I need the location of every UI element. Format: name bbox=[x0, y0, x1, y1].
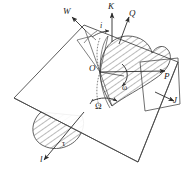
vector-diagram-figure: W K Q i O P ω Ω J τ l bbox=[0, 0, 190, 171]
label-omega-small: ω bbox=[122, 84, 127, 92]
label-w: W bbox=[63, 7, 71, 16]
label-q: Q bbox=[129, 9, 136, 18]
label-k: K bbox=[108, 2, 114, 11]
label-tau: τ bbox=[62, 140, 65, 148]
label-p: P bbox=[164, 72, 170, 81]
label-origin-o: O bbox=[89, 64, 96, 73]
label-l: l bbox=[40, 155, 43, 164]
label-i-angle: i bbox=[100, 22, 102, 30]
label-omega-big: Ω bbox=[95, 102, 102, 111]
vector-w bbox=[72, 17, 85, 30]
diagram-canvas bbox=[0, 0, 190, 171]
label-j: J bbox=[173, 96, 177, 105]
